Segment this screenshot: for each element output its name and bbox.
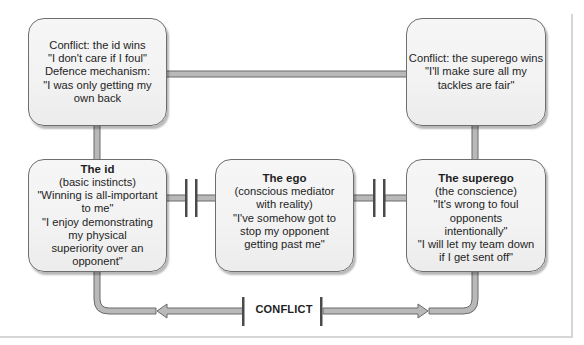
line: (basic instincts) [59, 176, 136, 189]
arrow-right-icon [323, 304, 428, 318]
box-the-superego: The superego (the conscience) "It's wron… [406, 159, 546, 272]
box-conflict-superego-wins: Conflict: the superego wins "I'll make s… [406, 18, 546, 126]
line: with reality) [256, 198, 313, 211]
connector-id-ego-blocked [164, 179, 217, 217]
line: "I'll make sure all my [425, 65, 527, 78]
box-title: The superego [438, 172, 513, 185]
line: Conflict: the superego wins [409, 52, 543, 65]
conflict-arrow-right [320, 270, 478, 326]
line: stop my opponent [240, 225, 329, 238]
block-bar-icon [373, 179, 376, 217]
line: (conscious mediator [234, 185, 334, 198]
line: to me" [82, 202, 114, 215]
connector-right-vertical [472, 124, 478, 161]
line: Conflict: the id wins [49, 39, 145, 52]
line: "I will let my team down [418, 238, 535, 251]
connector-ego-superego-blocked [351, 179, 408, 217]
line: "Winning is all-important [37, 189, 157, 202]
line: "I don't care if I foul" [48, 52, 147, 65]
line: own back [74, 92, 121, 105]
block-bar-icon [185, 179, 188, 217]
block-bar-icon [383, 179, 386, 217]
line: "I was only getting my [43, 79, 151, 92]
conflict-label: CONFLICT [252, 303, 316, 315]
line: Defence mechanism: [45, 65, 150, 78]
box-the-ego: The ego (conscious mediator with reality… [215, 159, 354, 272]
line: (the conscience) [435, 185, 517, 198]
connector-top-horizontal [164, 71, 408, 77]
line: "It's wrong to foul opponents [407, 198, 545, 224]
line: superiority over an opponent" [29, 242, 166, 268]
line: if I get sent off" [439, 251, 513, 264]
block-bar-icon [195, 179, 198, 217]
box-the-id: The id (basic instincts) "Winning is all… [28, 159, 167, 272]
box-conflict-id-wins: Conflict: the id wins "I don't care if I… [28, 18, 167, 126]
conflict-bar-left-icon [242, 297, 245, 326]
box-title: The id [81, 163, 115, 176]
line: my physical [68, 229, 126, 242]
line: "I've somehow got to [233, 212, 336, 225]
line: tackles are fair" [438, 79, 515, 92]
conflict-bar-right-icon [320, 297, 323, 326]
line: "I enjoy demonstrating [42, 216, 153, 229]
connector-left-vertical [94, 124, 100, 161]
line: getting past me" [244, 238, 324, 251]
conflict-arrow-left [94, 270, 245, 326]
line: intentionally" [444, 225, 507, 238]
arrow-left-icon [157, 304, 243, 318]
box-title: The ego [262, 172, 306, 185]
